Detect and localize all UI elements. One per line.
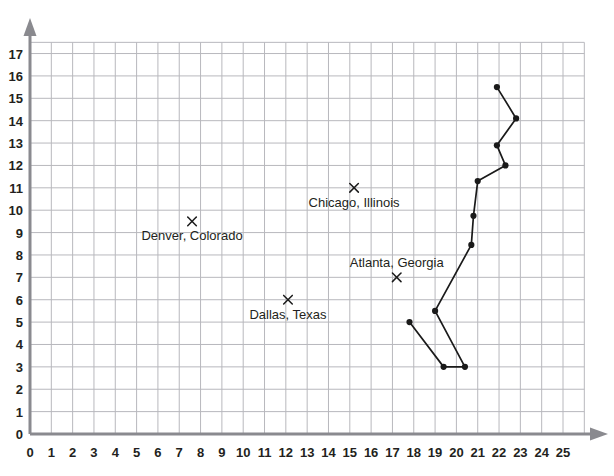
x-tick-label: 11 <box>258 446 272 459</box>
y-tick-label: 13 <box>9 137 23 150</box>
x-tick-label: 10 <box>236 446 250 459</box>
x-axis-line <box>30 428 608 441</box>
x-tick-label: 18 <box>407 446 421 459</box>
x-tick-label: 5 <box>133 446 140 459</box>
x-tick-label: 15 <box>343 446 357 459</box>
data-point <box>441 364 447 370</box>
x-tick-label: 4 <box>112 446 119 459</box>
y-tick-label: 2 <box>16 383 23 396</box>
data-point <box>494 142 500 148</box>
data-point <box>502 162 508 168</box>
y-tick-label: 7 <box>16 271 23 284</box>
y-tick-label: 9 <box>16 226 23 239</box>
x-tick-label: 22 <box>492 446 506 459</box>
y-tick-label: 4 <box>16 338 23 351</box>
x-tick-label: 3 <box>90 446 97 459</box>
x-tick-label: 12 <box>279 446 293 459</box>
y-tick-label: 1 <box>16 405 23 418</box>
x-tick-label: 20 <box>449 446 463 459</box>
city-label: Chicago, Illinois <box>309 196 400 209</box>
city-label: Denver, Colorado <box>141 229 242 242</box>
data-point <box>475 178 481 184</box>
y-axis-line <box>24 18 37 434</box>
x-tick-label: 25 <box>556 446 570 459</box>
x-tick-label: 24 <box>534 446 548 459</box>
y-axis-arrowhead <box>24 18 37 36</box>
data-point <box>494 84 500 90</box>
data-point <box>406 319 412 325</box>
y-tick-label: 16 <box>9 69 23 82</box>
y-tick-label: 17 <box>9 47 23 60</box>
x-axis-arrowhead <box>590 428 608 441</box>
x-tick-label: 23 <box>513 446 527 459</box>
y-tick-label: 14 <box>9 114 23 127</box>
y-tick-label: 12 <box>9 159 23 172</box>
x-tick-label: 9 <box>218 446 225 459</box>
vertical-gridlines <box>30 42 584 434</box>
data-point <box>432 308 438 314</box>
y-tick-label: 11 <box>9 181 23 194</box>
y-tick-label: 3 <box>16 360 23 373</box>
city-label: Atlanta, Georgia <box>350 256 444 269</box>
chart-plot-area <box>0 0 614 476</box>
x-tick-label: 7 <box>176 446 183 459</box>
chart-container: 0123456789101112131415161718192021222324… <box>0 0 614 476</box>
x-tick-label: 6 <box>154 446 161 459</box>
cross-marker-icon <box>188 217 197 226</box>
y-tick-label: 5 <box>16 316 23 329</box>
series-line-path <box>410 87 517 367</box>
y-tick-label: 6 <box>16 293 23 306</box>
y-tick-label: 15 <box>9 92 23 105</box>
x-tick-label: 14 <box>321 446 335 459</box>
data-point <box>513 115 519 121</box>
y-tick-label: 10 <box>9 204 23 217</box>
x-tick-label: 19 <box>428 446 442 459</box>
series-polyline <box>410 87 517 367</box>
y-tick-label: 0 <box>16 428 23 441</box>
x-tick-label: 16 <box>364 446 378 459</box>
x-tick-label: 13 <box>300 446 314 459</box>
series-data-points <box>406 84 519 370</box>
x-tick-label: 8 <box>197 446 204 459</box>
data-point <box>468 242 474 248</box>
data-point <box>470 213 476 219</box>
x-tick-label: 1 <box>48 446 55 459</box>
data-point <box>462 364 468 370</box>
x-tick-label: 17 <box>385 446 399 459</box>
city-label: Dallas, Texas <box>249 308 326 321</box>
x-tick-label: 21 <box>470 446 484 459</box>
y-tick-label: 8 <box>16 248 23 261</box>
x-tick-label: 0 <box>26 446 33 459</box>
x-tick-label: 2 <box>69 446 76 459</box>
